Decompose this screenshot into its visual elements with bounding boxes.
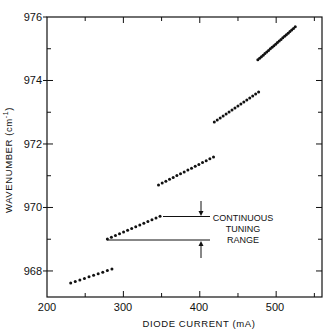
data-point bbox=[142, 222, 145, 225]
y-tick-label: 974 bbox=[24, 74, 42, 86]
annotation-line-3: RANGE bbox=[227, 235, 259, 245]
data-point bbox=[205, 159, 208, 162]
up-arrow-icon bbox=[199, 241, 204, 246]
data-point bbox=[122, 230, 125, 233]
data-point bbox=[106, 269, 109, 272]
axis-ticks bbox=[43, 17, 322, 297]
data-point bbox=[219, 117, 222, 120]
data-point bbox=[222, 115, 225, 118]
data-point bbox=[190, 167, 193, 170]
data-point bbox=[83, 277, 86, 280]
data-point bbox=[183, 170, 186, 173]
data-point bbox=[172, 176, 175, 179]
data-point bbox=[118, 232, 121, 235]
data-point bbox=[257, 90, 260, 93]
y-tick-label: 968 bbox=[24, 265, 42, 277]
annotation-line-1: CONTINUOUS bbox=[213, 213, 274, 223]
data-point bbox=[168, 178, 171, 181]
x-tick-label: 400 bbox=[190, 301, 208, 313]
data-point bbox=[161, 182, 164, 185]
data-point bbox=[231, 109, 234, 112]
data-point bbox=[97, 272, 100, 275]
data-point bbox=[248, 96, 251, 99]
x-tick-label: 200 bbox=[38, 301, 56, 313]
data-point bbox=[213, 121, 216, 124]
data-point bbox=[236, 104, 239, 107]
chart: 200 300 400 500 968 970 972 974 976 DIOD… bbox=[0, 0, 333, 336]
y-tick-label: 970 bbox=[24, 201, 42, 213]
data-point bbox=[157, 183, 160, 186]
data-point bbox=[146, 220, 149, 223]
data-point bbox=[175, 174, 178, 177]
data-point bbox=[138, 224, 141, 227]
x-tick-labels: 200 300 400 500 bbox=[38, 301, 284, 313]
data-point bbox=[212, 156, 215, 159]
x-axis-title: DIODE CURRENT (mA) bbox=[142, 318, 255, 329]
data-point bbox=[130, 227, 133, 230]
data-point bbox=[78, 278, 81, 281]
data-point bbox=[186, 169, 189, 172]
data-point bbox=[233, 107, 236, 110]
data-point bbox=[201, 161, 204, 164]
data-point bbox=[251, 94, 254, 97]
down-arrow-icon bbox=[199, 211, 204, 216]
data-point bbox=[242, 100, 245, 103]
data-point bbox=[254, 92, 257, 95]
data-point bbox=[88, 275, 91, 278]
data-point bbox=[110, 236, 113, 239]
data-point bbox=[92, 274, 95, 277]
data-point bbox=[74, 280, 77, 283]
y-tick-label: 976 bbox=[24, 11, 42, 23]
data-point bbox=[110, 268, 113, 271]
data-point bbox=[150, 218, 153, 221]
data-point bbox=[294, 25, 297, 28]
data-point bbox=[134, 225, 137, 228]
data-point bbox=[126, 229, 129, 232]
data-point bbox=[208, 157, 211, 160]
y-axis-title-main: WAVENUMBER (cm bbox=[3, 118, 14, 213]
data-point bbox=[194, 165, 197, 168]
x-tick-label: 300 bbox=[114, 301, 132, 313]
x-tick-label: 500 bbox=[266, 301, 284, 313]
data-point bbox=[228, 111, 231, 114]
y-tick-labels: 968 970 972 974 976 bbox=[24, 11, 42, 277]
data-point bbox=[164, 180, 167, 183]
data-point bbox=[69, 282, 72, 285]
data-point bbox=[101, 271, 104, 274]
plot-frame bbox=[47, 17, 322, 297]
data-point bbox=[239, 102, 242, 105]
data-point bbox=[114, 234, 117, 237]
data-points bbox=[69, 25, 297, 284]
data-point bbox=[179, 172, 182, 175]
y-tick-label: 972 bbox=[24, 138, 42, 150]
y-axis-title-sup: -1 bbox=[2, 111, 9, 118]
data-point bbox=[216, 119, 219, 122]
y-axis-title: WAVENUMBER (cm-1) bbox=[2, 107, 14, 213]
data-point bbox=[197, 163, 200, 166]
annotation-line-2: TUNING bbox=[226, 224, 261, 234]
data-point bbox=[155, 217, 158, 220]
data-point bbox=[245, 98, 248, 101]
data-point bbox=[225, 113, 228, 116]
y-axis-title-close: ) bbox=[3, 107, 14, 111]
data-point bbox=[159, 215, 162, 218]
